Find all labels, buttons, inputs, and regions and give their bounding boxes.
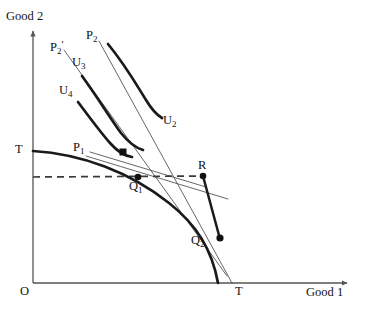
price-line-p1-tangent <box>90 152 206 187</box>
p2prime-text: P <box>50 40 57 54</box>
point-q2 <box>216 234 223 241</box>
indifference-curve-u3 <box>82 76 143 150</box>
point-q2-label: Q2 <box>191 234 205 249</box>
p2-subscript: 2 <box>93 34 98 44</box>
u2-text: U <box>163 113 172 127</box>
q2-subscript: 2 <box>200 239 205 249</box>
p1-text: P <box>73 140 80 154</box>
tangency-marker-u4 <box>120 149 127 156</box>
indifference-curve-u3-label: U3 <box>72 56 86 71</box>
p2prime-mark: ' <box>61 38 63 50</box>
point-r <box>200 173 207 180</box>
u2-subscript: 2 <box>172 119 177 129</box>
point-r-label: R <box>198 159 206 172</box>
price-line-p2 <box>99 41 232 283</box>
x-axis-label: Good 1 <box>306 286 343 299</box>
dashed-income-line <box>33 176 204 177</box>
q1-text: Q <box>129 179 138 193</box>
price-line-p1-label: P1 <box>73 141 84 156</box>
p1-subscript: 1 <box>80 146 85 156</box>
indifference-curve-u2-label: U2 <box>163 114 177 129</box>
y-axis-label: Good 2 <box>6 10 43 23</box>
u3-text: U <box>72 55 81 69</box>
q2-text: Q <box>191 233 200 247</box>
segment-r-to-q2 <box>203 176 220 239</box>
production-possibility-frontier <box>33 151 218 283</box>
p2-text: P <box>86 28 93 42</box>
u4-text: U <box>59 83 68 97</box>
t-label-x-axis: T <box>235 285 243 298</box>
indifference-curves <box>78 44 162 157</box>
q1-subscript: 1 <box>138 185 143 195</box>
indifference-curve-u4-label: U4 <box>59 84 73 99</box>
u4-subscript: 4 <box>68 89 73 99</box>
u3-subscript: 3 <box>81 61 86 71</box>
price-line-p2-prime-label: P2' <box>50 39 63 56</box>
price-line-p2-label: P2 <box>86 29 97 44</box>
t-label-y-axis: T <box>15 143 23 156</box>
origin-label: O <box>20 285 29 298</box>
economics-diagram: Good 2 Good 1 O T T P1 P2 P2' U2 U3 U4 Q… <box>0 0 366 321</box>
point-q1-label: Q1 <box>129 180 143 195</box>
